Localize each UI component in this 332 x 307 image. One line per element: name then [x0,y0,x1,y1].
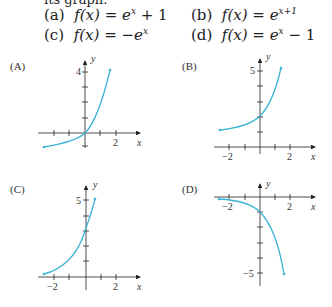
y-axis-label: y [265,178,271,189]
y-tick-label: −5 [243,268,254,279]
graph-c: (C) 5 −2 2 x y [10,179,142,292]
x-tick-label: −2 [47,281,58,292]
graph-a: (A) 4 2 x y [10,53,142,148]
curve [44,199,95,274]
curve [220,68,281,130]
y-axis-label: y [92,179,98,190]
x-tick-label: 2 [287,151,292,162]
x-axis-label: x [136,281,142,292]
graph-label: (D) [182,183,198,196]
x-axis-label: x [310,201,316,212]
graph-label: (C) [10,183,25,196]
x-tick-label: −2 [222,151,233,162]
x-axis-label: x [136,137,142,148]
graph-d: (D) −5 −2 2 x y [182,178,316,286]
y-tick-label: 4 [76,66,81,77]
graphs-figure: (A) 4 2 x y (B) 5 −2 2 x y [0,0,332,307]
y-axis-label: y [90,53,96,64]
x-tick-label: 2 [113,281,118,292]
y-axis-label: y [265,51,271,62]
y-tick-label: 5 [250,65,255,76]
graph-label: (B) [182,60,197,73]
x-tick-label: 2 [287,201,292,212]
x-tick-label: −2 [222,201,233,212]
y-tick-label: 5 [76,195,81,206]
x-axis-label: x [310,151,316,162]
graph-label: (A) [10,60,26,73]
x-tick-label: 2 [113,137,118,148]
graph-b: (B) 5 −2 2 x y [182,51,316,162]
